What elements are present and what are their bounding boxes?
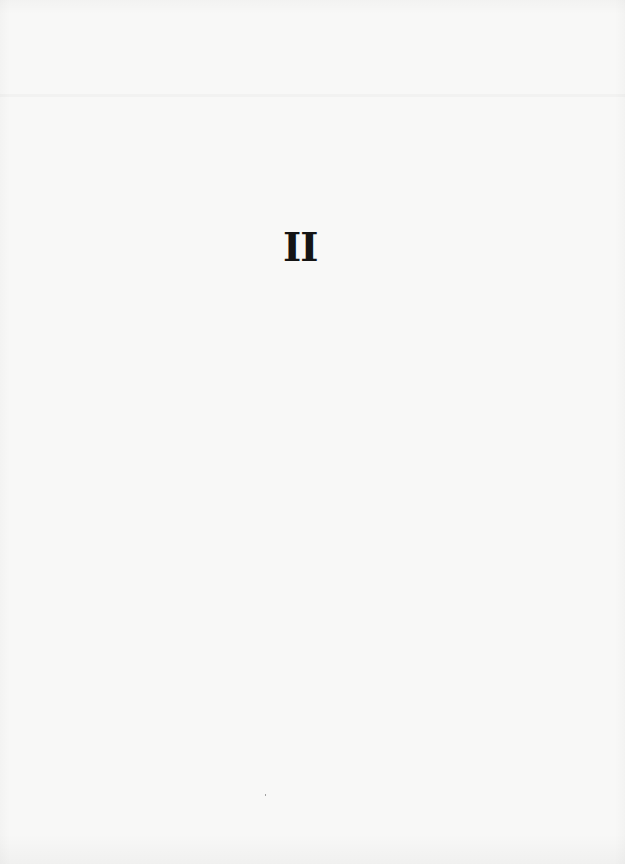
scan-artifact-band (0, 94, 625, 97)
paper-speck (265, 794, 266, 796)
part-numeral-heading: II (283, 225, 315, 269)
book-page: II (0, 0, 625, 864)
